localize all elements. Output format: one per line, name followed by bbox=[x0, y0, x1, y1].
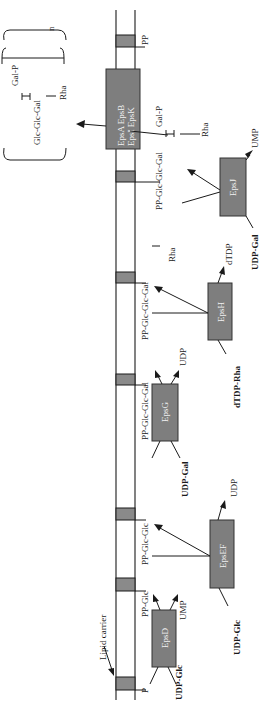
epsh-product: dTDP bbox=[224, 243, 234, 265]
segment-label-pp-glc-glc-gal-top: PP-Glc-Glc-Gal bbox=[154, 152, 164, 210]
epsd-substrate: UDP-Glc bbox=[174, 665, 184, 700]
segment-5 bbox=[116, 508, 135, 520]
intermediate-branch-top: Gal-P Rha bbox=[154, 106, 210, 137]
epsh-substrate: dTDP-Rha bbox=[232, 365, 242, 408]
segment-6 bbox=[116, 578, 135, 591]
enzyme-epsj: EpsJ bbox=[220, 158, 246, 216]
segment-label-pp-glc: PP-Glc bbox=[140, 591, 150, 617]
branch-rha-mid: Rha bbox=[167, 247, 177, 262]
epsg-substrate: UDP-Gal bbox=[180, 461, 190, 497]
enzyme-epsg: EpsG bbox=[152, 384, 178, 441]
segment-label-pp-glc-glc: PP-Glc-Glc bbox=[140, 523, 150, 565]
segment-label-pp-glc-glc-gal-2: PP-Glc-Glc-Gal bbox=[140, 382, 150, 440]
branch-gal-p: Gal-P bbox=[154, 106, 164, 127]
branch-rha: Rha bbox=[200, 122, 210, 137]
eps-biosynthesis-diagram: PP PP-Glc-Glc-Gal PP-Glc-Glc-Gal PP-Glc-… bbox=[0, 0, 259, 702]
polymer-rha: Rha bbox=[58, 85, 68, 100]
polymer-repeat-unit: Gal-P Glc-Glc-Gal Rha n bbox=[2, 26, 68, 160]
epsj-substrate: UDP-Gal bbox=[250, 234, 259, 270]
epsabik-line1: EpsA EpsB bbox=[116, 105, 126, 146]
epsh-label: EpsH bbox=[216, 302, 226, 323]
epsef-product: UDP bbox=[229, 479, 239, 497]
epsj-label: EpsJ bbox=[228, 179, 238, 197]
segment-label-p: P bbox=[140, 688, 150, 693]
segment-2 bbox=[116, 171, 135, 182]
epsg-label: EpsG bbox=[160, 402, 170, 423]
polymer-repeat-n: n bbox=[46, 26, 56, 31]
epsd-product: UMP bbox=[178, 600, 188, 620]
epsef-substrate: UDP-Glc bbox=[232, 620, 242, 655]
epsg-product: UDP bbox=[178, 348, 188, 366]
segment-p bbox=[116, 677, 135, 690]
enzyme-epsef: EpsEF bbox=[210, 520, 234, 588]
segment-label-pp-glc-glc-gal: PP-Glc-Glc-Gal bbox=[140, 282, 150, 340]
polymer-backbone: Glc-Glc-Gal bbox=[32, 100, 42, 145]
enzyme-epsd: EpsD bbox=[152, 610, 176, 667]
segment-3 bbox=[116, 272, 135, 283]
enzyme-epsh: EpsH bbox=[208, 283, 232, 340]
segment-4 bbox=[116, 374, 135, 385]
segment-pp bbox=[116, 35, 135, 47]
intermediate-branch-mid: Rha bbox=[152, 246, 177, 262]
arrowhead-polymer bbox=[76, 120, 85, 128]
epsd-label: EpsD bbox=[160, 628, 170, 649]
segment-label-pp: PP bbox=[140, 35, 150, 45]
epsj-product: UMP bbox=[250, 128, 259, 148]
polymer-gal-p: Gal-P bbox=[10, 65, 20, 86]
enzyme-epsabik: EpsA EpsB EpsI EpsK bbox=[106, 69, 140, 149]
epsabik-line2: EpsI EpsK bbox=[126, 107, 136, 146]
epsef-label: EpsEF bbox=[218, 544, 228, 568]
